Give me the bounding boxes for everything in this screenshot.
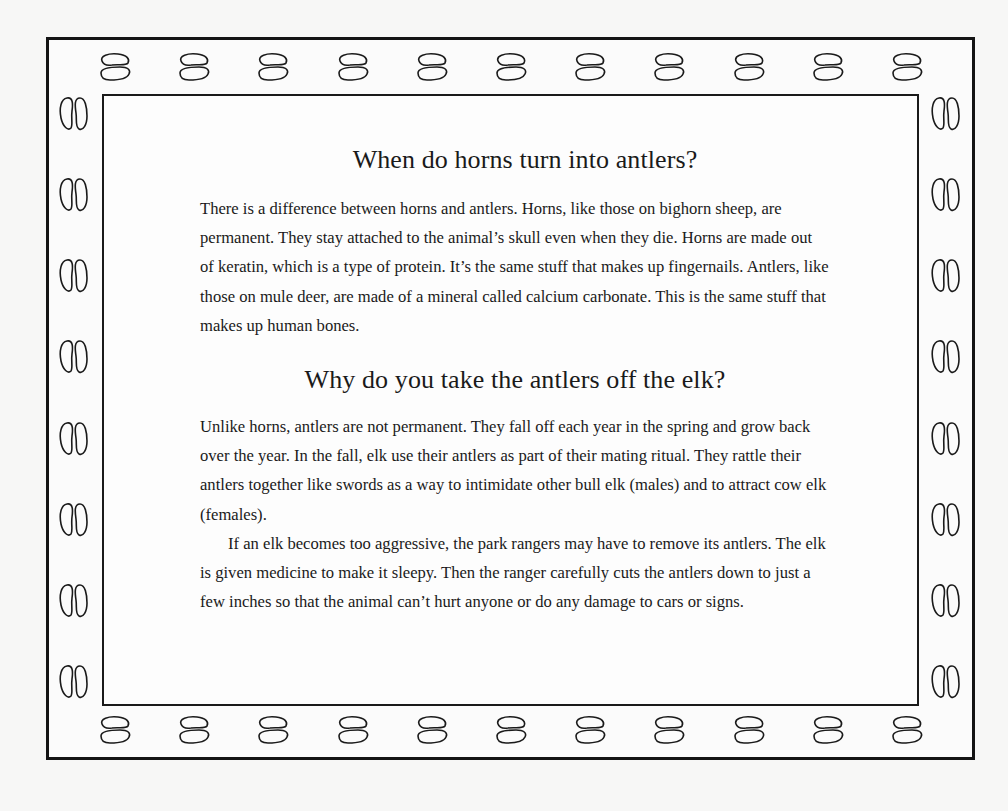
hoofprint-icon [58, 339, 94, 379]
hoofprint-column-right [930, 96, 966, 704]
hoofprint-icon [930, 421, 966, 461]
body-paragraph: Unlike horns, antlers are not permanent.… [200, 412, 830, 529]
hoofprint-icon [98, 715, 132, 749]
hoofprint-icon [732, 715, 766, 749]
hoofprint-icon [930, 258, 966, 298]
hoofprint-icon [256, 715, 290, 749]
hoofprint-icon [58, 96, 94, 136]
hoofprint-icon [336, 52, 370, 86]
hoofprint-icon [177, 52, 211, 86]
section-horns-vs-antlers: When do horns turn into antlers? There i… [200, 140, 830, 340]
hoofprint-icon [890, 715, 924, 749]
hoofprint-icon [177, 715, 211, 749]
hoofprint-icon [890, 52, 924, 86]
hoofprint-icon [98, 52, 132, 86]
hoofprint-icon [415, 715, 449, 749]
hoofprint-icon [930, 339, 966, 379]
hoofprint-row-bottom [98, 715, 924, 749]
hoofprint-icon [494, 715, 528, 749]
hoofprint-icon [494, 52, 528, 86]
section-heading: Why do you take the antlers off the elk? [200, 360, 830, 400]
hoofprint-icon [58, 664, 94, 704]
hoofprint-icon [811, 715, 845, 749]
hoofprint-icon [930, 664, 966, 704]
section-heading: When do horns turn into antlers? [220, 140, 830, 180]
hoofprint-icon [336, 715, 370, 749]
hoofprint-icon [573, 52, 607, 86]
hoofprint-icon [58, 177, 94, 217]
hoofprint-icon [930, 583, 966, 623]
text-content: When do horns turn into antlers? There i… [200, 140, 830, 616]
section-antler-removal: Why do you take the antlers off the elk?… [200, 360, 830, 616]
hoofprint-icon [573, 715, 607, 749]
body-paragraph: If an elk becomes too aggressive, the pa… [200, 529, 830, 617]
hoofprint-icon [930, 96, 966, 136]
hoofprint-icon [58, 502, 94, 542]
hoofprint-icon [256, 52, 290, 86]
hoofprint-icon [58, 258, 94, 298]
hoofprint-row-top [98, 52, 924, 86]
hoofprint-icon [811, 52, 845, 86]
hoofprint-icon [732, 52, 766, 86]
hoofprint-column-left [58, 96, 94, 704]
hoofprint-icon [415, 52, 449, 86]
page: When do horns turn into antlers? There i… [0, 0, 1008, 811]
hoofprint-icon [652, 715, 686, 749]
hoofprint-icon [930, 502, 966, 542]
hoofprint-icon [930, 177, 966, 217]
hoofprint-icon [58, 583, 94, 623]
body-paragraph: There is a difference between horns and … [200, 194, 830, 340]
hoofprint-icon [652, 52, 686, 86]
hoofprint-icon [58, 421, 94, 461]
